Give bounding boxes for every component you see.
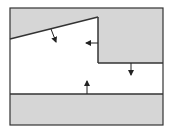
lower-shaded-region: [10, 94, 163, 125]
boundary-diagram: [0, 0, 171, 131]
